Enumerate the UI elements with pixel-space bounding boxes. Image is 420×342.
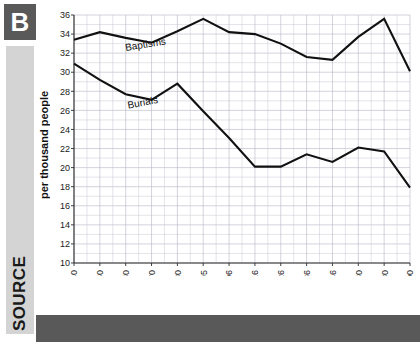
y-tick-label: 14 (60, 220, 70, 230)
y-tick-label: 18 (60, 182, 70, 192)
x-tick-label: 1796–1806 (224, 270, 234, 276)
x-tick-labels: 174017501760177017801785–951796–18061806… (69, 270, 415, 276)
y-tick-label: 12 (60, 239, 70, 249)
y-tick-label: 28 (60, 87, 70, 97)
y-tick-label: 26 (60, 106, 70, 116)
x-tick-label: 1871–80 (380, 270, 390, 276)
y-tick-label: 34 (60, 29, 70, 39)
x-tick-label: 1770 (147, 270, 157, 276)
y-tick-label: 36 (60, 10, 70, 20)
x-tick-label: 1740 (69, 270, 79, 276)
y-tick-label: 24 (60, 125, 70, 135)
x-tick-label: 1836–46 (328, 270, 338, 276)
y-tick-labels: 1012141618202224262830323436 (60, 10, 70, 268)
source-label: SOURCE (6, 258, 34, 328)
y-tick-label: 22 (60, 144, 70, 154)
line-chart: 1012141618202224262830323436 17401750176… (44, 6, 416, 276)
footer-bar (36, 315, 420, 342)
x-tick-label: 1851–60 (354, 270, 364, 276)
y-tick-label: 30 (60, 67, 70, 77)
y-tick-label: 16 (60, 201, 70, 211)
x-tick-label: 1816–26 (276, 270, 286, 276)
axes-layer (71, 15, 410, 266)
x-tick-label: 1760 (121, 270, 131, 276)
chart-canvas: 1012141618202224262830323436 17401750176… (44, 6, 416, 276)
x-tick-label: 1780 (173, 270, 183, 276)
x-tick-label: 1806–16 (250, 270, 260, 276)
x-tick-label: 1750 (95, 270, 105, 276)
series-annotations: BaptismsBurials (124, 36, 166, 111)
grid-layer (74, 15, 410, 263)
x-tick-label: 1785–95 (199, 270, 209, 276)
y-tick-label: 10 (60, 258, 70, 268)
y-tick-label: 20 (60, 163, 70, 173)
series-annotation-burials: Burials (127, 94, 159, 111)
x-tick-label: 1826–36 (302, 270, 312, 276)
y-tick-label: 32 (60, 48, 70, 58)
x-tick-label: 1891–1900 (405, 270, 415, 276)
figure-badge: B (4, 4, 36, 40)
